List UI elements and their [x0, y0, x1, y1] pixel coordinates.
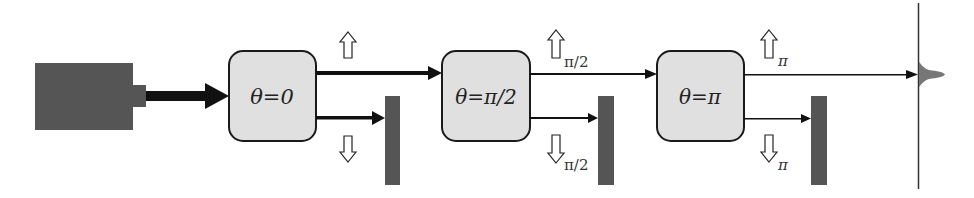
detector-2 [598, 96, 614, 185]
spin-up-arrow-icon-3 [761, 30, 777, 58]
spin-down-arrow-icon-3 [761, 135, 777, 162]
source-device [35, 63, 146, 130]
stage-3-label: θ=π [679, 85, 722, 109]
detector-1 [385, 96, 400, 185]
stage-box-1: θ=0 [229, 51, 316, 141]
stage-2-lower-beam [530, 113, 598, 123]
spin-up-arrow-icon-1 [340, 32, 356, 58]
detector-3 [811, 96, 827, 185]
stage-1-lower-beam [316, 111, 385, 125]
stage-box-2: θ=π/2 [442, 51, 530, 141]
stage-1-upper-beam [316, 66, 442, 80]
stage-2-upper-beam [530, 69, 657, 79]
stage-1-label: θ=0 [250, 85, 294, 109]
stage-2-label: θ=π/2 [455, 85, 516, 109]
stage-3-lower-beam [744, 114, 811, 123]
spin-down-arrow-icon-2 [548, 135, 564, 163]
stage-box-3: θ=π [657, 51, 744, 141]
spin-down-arrow-icon-1 [340, 136, 356, 162]
spin-up-arrow-icon-2 [548, 30, 564, 58]
input-beam-arrow [146, 83, 229, 109]
stage-2-down-subscript: π/2 [564, 156, 588, 174]
intensity-peak [919, 62, 945, 87]
stage-3-upper-beam [744, 70, 918, 79]
diagram-canvas: θ=0 θ=π/2 π/2 π/2 θ=π [0, 0, 974, 198]
stage-3-down-subscript: π [777, 156, 789, 174]
stage-3-up-subscript: π [777, 52, 789, 70]
stage-2-up-subscript: π/2 [564, 53, 588, 71]
